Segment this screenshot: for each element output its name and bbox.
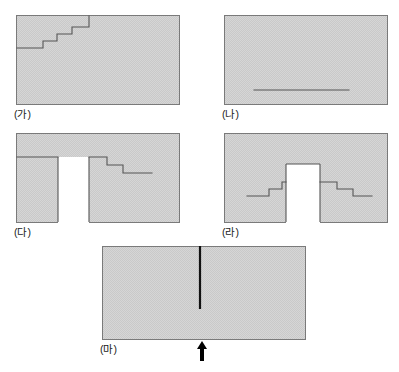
panel-da-body xyxy=(17,134,180,223)
panel-na xyxy=(224,15,388,105)
panel-label-ma: (마) xyxy=(100,343,117,355)
panel-ga-body xyxy=(17,16,180,105)
panel-ma-graphic xyxy=(102,246,306,340)
figure-root: (가) (나) xyxy=(0,0,399,372)
panel-na-graphic xyxy=(224,15,388,105)
panel-da-graphic xyxy=(16,133,180,223)
panel-ma-body xyxy=(103,247,306,340)
panel-ra xyxy=(224,133,388,223)
panel-label-na: (나) xyxy=(222,108,239,120)
white-block xyxy=(286,164,320,223)
panel-da xyxy=(16,133,180,223)
up-arrow-glyph xyxy=(193,341,211,361)
up-arrow-icon xyxy=(193,341,211,361)
panel-ga-graphic xyxy=(16,15,180,105)
panel-ma xyxy=(102,246,306,340)
panel-ra-graphic xyxy=(224,133,388,223)
panel-label-ra: (라) xyxy=(222,226,239,238)
panel-label-da: (다) xyxy=(14,226,31,238)
panel-na-body xyxy=(225,16,388,105)
white-block xyxy=(58,157,89,223)
up-arrow-shape xyxy=(197,341,207,361)
panel-label-ga: (가) xyxy=(14,108,31,120)
panel-ga xyxy=(16,15,180,105)
